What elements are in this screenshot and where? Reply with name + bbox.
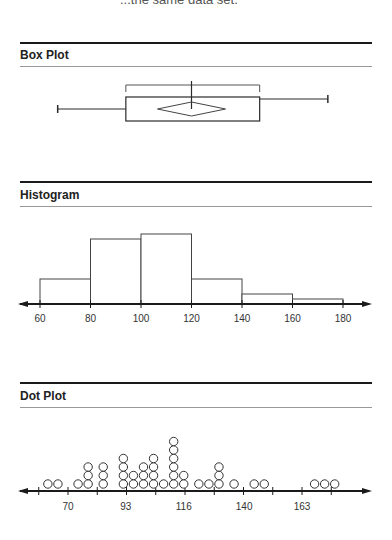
histogram-section: Histogram [20,177,372,327]
section-title: Histogram [20,188,79,202]
section-title: Box Plot [20,48,69,62]
section-rule-thin [20,407,372,408]
box-plot-section: Box Plot [20,38,372,148]
section-rule-thick [20,181,372,183]
section-rule-thin [20,206,372,207]
section-rule-thick [20,42,372,44]
section-rule-thick [20,382,372,384]
section-title: Dot Plot [20,389,66,403]
section-rule-thin [20,66,372,67]
dot-plot-section: Dot Plot [20,378,372,528]
cut-off-caption: ...the same data set. [120,0,238,7]
